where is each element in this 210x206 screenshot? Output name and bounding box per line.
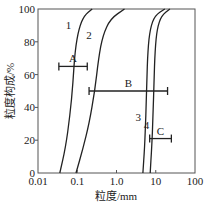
y-tick-label: 40 bbox=[24, 101, 36, 113]
x-tick-label: 10 bbox=[150, 175, 162, 187]
range-bar-A: A bbox=[59, 52, 87, 70]
x-axis-title: 粒度/mm bbox=[95, 189, 138, 202]
y-axis-title: 粒度构成/% bbox=[3, 63, 16, 119]
y-tick-label: 0 bbox=[30, 167, 36, 179]
x-tick-label: 1.0 bbox=[110, 175, 124, 187]
y-tick-label: 80 bbox=[24, 36, 36, 48]
x-tick-label: 0.1 bbox=[70, 175, 84, 187]
x-tick-label: 100 bbox=[187, 175, 204, 187]
y-tick-label: 20 bbox=[24, 134, 36, 146]
curve-label-4: 4 bbox=[144, 119, 150, 131]
range-label: B bbox=[125, 77, 132, 89]
curve-label-2: 2 bbox=[86, 29, 92, 41]
range-label: C bbox=[157, 125, 164, 137]
y-tick-label: 100 bbox=[19, 3, 36, 15]
curve-label-1: 1 bbox=[66, 19, 72, 31]
range-label: A bbox=[69, 52, 77, 64]
range-bar-B: B bbox=[89, 77, 168, 95]
curve-label-3: 3 bbox=[136, 111, 142, 123]
y-tick-label: 60 bbox=[24, 69, 36, 81]
particle-size-chart: 0.010.11.010100020406080100 ABC 1234 粒度/… bbox=[0, 0, 210, 206]
